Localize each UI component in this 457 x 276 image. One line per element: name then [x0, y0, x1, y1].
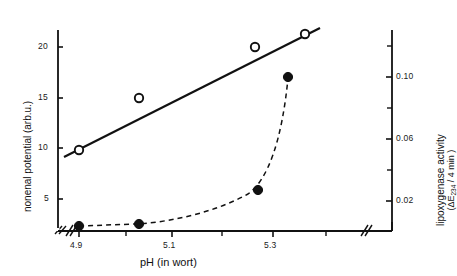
right-axis-tick-label-0-02: 0.02 — [396, 195, 413, 205]
x-axis-title: pH (in wort) — [140, 256, 197, 268]
data-point-open-circle — [75, 146, 83, 154]
data-point-filled-circle — [134, 219, 143, 228]
left-axis-title: nonenal potential (arb.u.) — [22, 101, 33, 212]
data-point-open-circle — [301, 30, 309, 38]
right-y-axis — [386, 30, 392, 231]
left-y-axis — [55, 30, 66, 234]
right-axis-tick-label-0-10: 0.10 — [396, 71, 413, 81]
left-axis-tick-label-10: 10 — [38, 142, 48, 152]
right-axis-title-line2: (ΔE234 / 4 min ) — [446, 134, 456, 226]
right-axis-tick-label-0-06: 0.06 — [396, 133, 413, 143]
right-axis-title-subscript: 234 — [450, 185, 457, 196]
data-point-filled-circle — [74, 221, 83, 230]
right-axis-title-line1: lipoxygenase activity — [435, 134, 446, 226]
nonenal-trend-line — [64, 28, 320, 157]
right-axis-title: lipoxygenase activity (ΔE234 / 4 min ) — [435, 134, 456, 226]
data-point-filled-circle — [253, 185, 262, 194]
left-axis-tick-label-20: 20 — [38, 41, 48, 51]
data-point-filled-circle — [283, 72, 292, 81]
x-axis-tick-label-4-9: 4.9 — [70, 240, 82, 250]
x-axis-tick-label-5-3: 5.3 — [264, 240, 276, 250]
data-point-open-circle — [135, 94, 143, 102]
lipoxygenase-trend-curve — [79, 78, 288, 226]
x-axis-tick-label-5-1: 5.1 — [163, 240, 175, 250]
left-axis-tick-label-5: 5 — [44, 193, 49, 203]
data-point-open-circle — [251, 43, 259, 51]
left-axis-tick-label-15: 15 — [38, 92, 48, 102]
